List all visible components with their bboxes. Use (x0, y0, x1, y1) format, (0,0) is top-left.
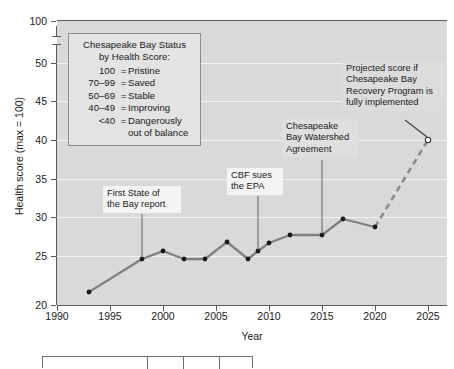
key-range: <40 (75, 115, 119, 127)
annotation-chesapeake-bay-watershed-agreement: Chesapeake Bay Watershed Agreement (282, 119, 358, 157)
key-equals: = (119, 90, 128, 102)
data-point-2016 (341, 217, 346, 222)
series-measured-line (89, 219, 375, 292)
key-status: Dangerously (128, 115, 194, 127)
data-point-1993 (87, 290, 92, 295)
data-point-2010 (267, 241, 272, 246)
series-projected-line (375, 140, 428, 227)
key-status: Improving (128, 102, 194, 114)
key-row: 70–99 = Saved (75, 77, 194, 89)
leader-line-projected-note (405, 120, 427, 137)
annotation-cbf-sues-the-epa: CBF sues the EPA (227, 168, 283, 195)
key-status-continuation: out of balance (75, 127, 194, 139)
table-column-divider (219, 357, 220, 369)
key-title-line2: by Health Score: (75, 51, 194, 63)
key-row: <40 = Dangerously (75, 115, 194, 127)
table-column-divider (183, 357, 184, 369)
data-point-2008 (246, 257, 251, 262)
key-equals: = (119, 102, 128, 114)
data-point-2018 (373, 225, 378, 230)
key-status: Saved (128, 77, 194, 89)
key-range: 70–99 (75, 77, 119, 89)
key-row: 40–49 = Improving (75, 102, 194, 114)
key-equals: = (119, 77, 128, 89)
health-score-key-box: Chesapeake Bay Status by Health Score: 1… (68, 33, 201, 146)
key-status: Pristine (128, 65, 194, 77)
key-row: 100 = Pristine (75, 65, 194, 77)
annotation-first-state-of-the-bay-report: First State of the Bay report (103, 186, 181, 213)
data-point-2004 (203, 257, 208, 262)
key-status: Stable (128, 90, 194, 102)
data-point-2025-projected (425, 137, 430, 142)
key-range: 40–49 (75, 102, 119, 114)
key-rows: 100 = Pristine 70–99 = Saved 50–69 = Sta… (75, 65, 194, 139)
table-column-divider (147, 357, 148, 369)
key-range: 50–69 (75, 90, 119, 102)
key-row: 50–69 = Stable (75, 90, 194, 102)
key-equals: = (119, 115, 128, 127)
data-point-2006 (225, 240, 230, 245)
data-point-2000 (161, 249, 166, 254)
annotation-projected-score-note: Projected score if Chesapeake Bay Recove… (342, 61, 446, 111)
data-point-2002 (182, 257, 187, 262)
data-point-2012 (288, 233, 293, 238)
table-fragment (42, 356, 253, 368)
key-equals: = (119, 65, 128, 77)
key-title-line1: Chesapeake Bay Status (75, 39, 194, 51)
key-range: 100 (75, 65, 119, 77)
